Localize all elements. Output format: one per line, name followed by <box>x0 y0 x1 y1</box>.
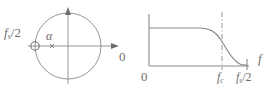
unit-circle-graphic <box>0 0 137 92</box>
unit-circle-origin-label: 0 <box>119 50 126 63</box>
frequency-axis-label: f <box>258 52 262 65</box>
figure-root: fs/2 α 0 0 fc fs/2 f <box>0 0 275 92</box>
unit-circle-panel: fs/2 α 0 <box>0 0 137 92</box>
imaginary-axis-arrowhead-icon <box>65 7 71 15</box>
unit-circle-nyquist-label: fs/2 <box>4 26 21 39</box>
magnitude-response-curve <box>150 28 247 65</box>
response-panel: 0 fc fs/2 f <box>137 0 275 92</box>
angle-alpha-label: α <box>46 30 52 42</box>
real-axis-arrowhead-icon <box>111 43 119 49</box>
response-nyquist-label: fs/2 <box>236 71 252 83</box>
cutoff-frequency-label: fc <box>217 71 224 83</box>
response-origin-label: 0 <box>141 70 148 83</box>
response-graphic <box>137 0 275 92</box>
